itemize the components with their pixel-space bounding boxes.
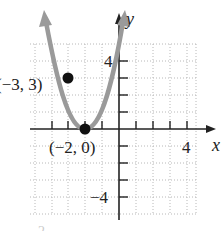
parabola-curve [46, 22, 123, 129]
y-tick-label-neg4: −4 [90, 188, 109, 207]
y-tick-label-4: 4 [104, 52, 113, 71]
axes [30, 22, 210, 220]
parabola-graph: (−3, 3) (−2, 0) 4 −4 4 x y 2 [0, 0, 222, 231]
point-label-neg3-3: (−3, 3) [0, 75, 42, 94]
caption-fragment: 2 [38, 224, 45, 231]
y-axis-label: y [124, 9, 134, 29]
point-neg2-0 [80, 124, 91, 135]
point-neg3-3 [63, 73, 74, 84]
x-tick-label-4: 4 [182, 138, 191, 157]
x-axis-arrow-icon [206, 125, 216, 133]
curve-arrow-left-icon [39, 10, 52, 27]
point-label-neg2-0: (−2, 0) [49, 138, 95, 157]
x-axis-label: x [211, 135, 220, 155]
